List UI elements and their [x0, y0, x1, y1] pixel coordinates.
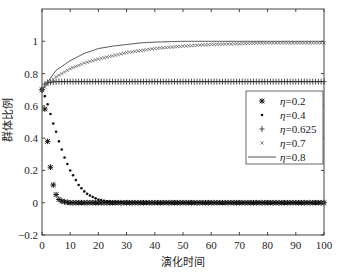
y-tick-label: 0.4	[24, 132, 38, 144]
y-tick-label: 0	[33, 197, 39, 209]
x-tick-label: 50	[178, 239, 190, 251]
legend-label: η=0.2	[280, 95, 305, 107]
legend-marker-icon	[261, 114, 264, 117]
legend-label: η=0.8	[280, 151, 306, 163]
legend-label: η=0.625	[280, 123, 317, 135]
evolution-chart: 0102030405060708090100−0.200.20.40.60.81…	[0, 0, 340, 274]
y-tick-label: 0.2	[24, 164, 38, 176]
y-tick-label: 0.8	[24, 68, 38, 80]
x-tick-label: 30	[121, 239, 133, 251]
x-tick-label: 80	[262, 239, 274, 251]
legend-label: η=0.4	[280, 109, 306, 121]
x-tick-label: 90	[290, 239, 302, 251]
x-tick-label: 10	[65, 239, 77, 251]
x-tick-label: 60	[206, 239, 218, 251]
legend-marker-icon	[259, 98, 265, 104]
y-axis-label: 群体比例	[1, 98, 15, 142]
x-axis-label: 演化时间	[161, 255, 205, 269]
legend-label: η=0.7	[280, 137, 306, 149]
y-tick-label: −0.2	[18, 229, 38, 241]
x-tick-label: 40	[149, 239, 161, 251]
x-tick-label: 70	[234, 239, 246, 251]
y-tick-label: 1	[33, 35, 39, 47]
y-tick-label: 0.6	[24, 100, 38, 112]
x-tick-label: 0	[39, 239, 45, 251]
x-tick-label: 20	[93, 239, 105, 251]
legend: η=0.2η=0.4η=0.625η=0.7η=0.8	[246, 91, 323, 164]
x-tick-label: 100	[316, 239, 333, 251]
